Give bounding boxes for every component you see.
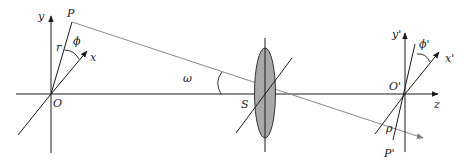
label-z: z: [433, 98, 440, 111]
object-plane-oblique: [18, 94, 51, 135]
label-P-prime: P': [383, 147, 394, 160]
label-y-prime: y': [391, 28, 401, 41]
chief-ray: [72, 22, 423, 138]
label-y: y: [37, 10, 45, 23]
label-P: P: [66, 7, 75, 20]
label-O-prime: O': [389, 80, 401, 93]
label-O: O: [53, 97, 62, 110]
angle-omega-arc: [218, 72, 222, 94]
label-rho: ρ: [385, 122, 393, 135]
label-r: r: [56, 41, 62, 54]
label-omega: ω: [183, 72, 192, 85]
x-axis: [51, 51, 87, 94]
label-phi-prime: ϕ': [419, 38, 430, 51]
x-prime-axis: [405, 52, 439, 94]
angle-phi-prime-arc: [417, 54, 430, 62]
radius-line-r: [51, 22, 72, 94]
label-phi: ϕ: [73, 35, 81, 48]
optics-diagram: y P r ϕ x O ω S y' ϕ' x' O' z ρ P': [0, 0, 464, 162]
label-x-prime: x': [445, 52, 454, 65]
angle-phi-arc: [65, 50, 80, 59]
label-x: x: [90, 51, 97, 64]
label-S: S: [241, 98, 249, 111]
